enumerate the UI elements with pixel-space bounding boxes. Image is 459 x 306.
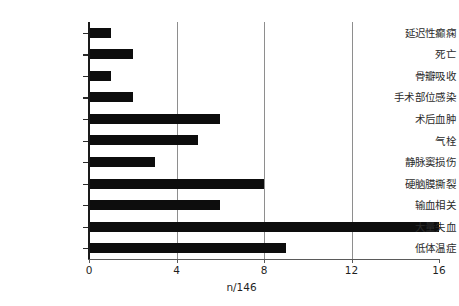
y-axis-tick-label: 气栓 xyxy=(375,135,459,147)
bar-chart: 延迟性癫痫死亡骨瓣吸收手术部位感染术后血肿气栓静脉窦损伤硬脑膜撕裂输血相关大量失… xyxy=(0,0,459,306)
y-axis-tick-label: 硬脑膜撕裂 xyxy=(375,178,459,190)
y-axis-tick-label: 输血相关 xyxy=(375,199,459,211)
y-axis-tick-label: 术后血肿 xyxy=(375,113,459,125)
y-axis-tick xyxy=(83,248,88,249)
y-axis-tick-label: 死亡 xyxy=(375,48,459,60)
x-axis-tick xyxy=(352,259,353,263)
bar xyxy=(89,71,111,81)
y-axis-tick xyxy=(83,227,88,228)
x-axis-title-text: n/146 xyxy=(226,281,256,293)
y-axis-tick xyxy=(83,119,88,120)
y-axis-line xyxy=(88,22,90,260)
bar xyxy=(89,243,286,253)
y-axis-tick xyxy=(83,97,88,98)
y-axis-tick xyxy=(83,162,88,163)
x-axis-title: n/146 xyxy=(0,281,459,293)
bar xyxy=(89,179,264,189)
y-axis-tick xyxy=(83,33,88,34)
x-axis-tick xyxy=(177,259,178,263)
bar xyxy=(89,157,155,167)
y-axis-tick-label: 手术部位感染 xyxy=(375,91,459,103)
x-axis-tick xyxy=(439,259,440,263)
y-axis-tick-label: 静脉窦损伤 xyxy=(375,156,459,168)
y-axis-tick xyxy=(83,184,88,185)
bar xyxy=(89,135,198,145)
y-axis-tick xyxy=(83,141,88,142)
bar xyxy=(89,200,220,210)
x-axis-tick-label: 4 xyxy=(173,264,180,276)
bar xyxy=(89,114,220,124)
y-axis-tick-label: 延迟性癫痫 xyxy=(375,27,459,39)
bar xyxy=(89,28,111,38)
bar xyxy=(89,92,133,102)
x-axis-tick-label: 0 xyxy=(86,264,93,276)
bar xyxy=(89,49,133,59)
x-axis-tick-label: 12 xyxy=(345,264,358,276)
y-axis-tick xyxy=(83,76,88,77)
y-axis-tick xyxy=(83,205,88,206)
x-axis-tick xyxy=(89,259,90,263)
y-axis-tick xyxy=(83,54,88,55)
y-axis-tick-label: 大量失血 xyxy=(375,221,459,233)
x-axis-tick xyxy=(264,259,265,263)
x-axis-tick-label: 16 xyxy=(432,264,445,276)
y-axis-tick-label: 骨瓣吸收 xyxy=(375,70,459,82)
x-axis-tick-label: 8 xyxy=(261,264,268,276)
y-axis-tick-label: 低体温症 xyxy=(375,242,459,254)
